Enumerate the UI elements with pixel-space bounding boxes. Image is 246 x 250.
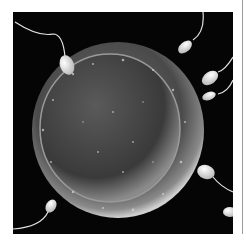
sperm-cell (199, 57, 233, 88)
border-line (242, 0, 243, 234)
sperm-cell (223, 207, 233, 217)
sperm-cell (15, 22, 77, 77)
sperm-cell (195, 162, 233, 192)
egg-cell (32, 42, 204, 218)
egg-and-sperm-photo: Scanning electron micrograph style image… (13, 12, 233, 234)
sperm-cell (13, 197, 59, 229)
micrograph-illustration (13, 12, 233, 234)
sperm-cell (176, 12, 204, 56)
